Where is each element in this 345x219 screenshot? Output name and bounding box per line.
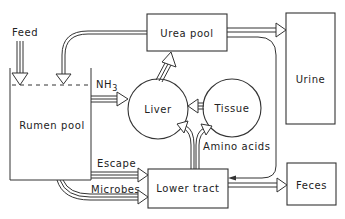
lower-tract-label: Lower tract bbox=[156, 183, 219, 194]
feces-label: Feces bbox=[296, 180, 327, 191]
lower-tract-to-feces-arrow bbox=[228, 178, 287, 192]
feces-node: Feces bbox=[287, 163, 336, 205]
urea-pool-node: Urea pool bbox=[147, 14, 227, 51]
nh3-arrow: NH3 bbox=[91, 79, 128, 106]
tissue-node: Tissue bbox=[203, 79, 261, 137]
liver-to-urea-arrow bbox=[156, 52, 176, 82]
amino-acids-label: Amino acids bbox=[203, 141, 271, 152]
urine-label: Urine bbox=[296, 74, 326, 85]
feed-arrow: Feed bbox=[12, 27, 38, 85]
urea-recycle-arrow bbox=[56, 31, 147, 84]
nitrogen-flow-diagram: Urea pool Urine Feces Rumen pool Lower t… bbox=[0, 0, 345, 219]
tissue-to-liver-arrow bbox=[188, 99, 204, 113]
escape-arrow: Escape bbox=[91, 158, 148, 182]
liver-label: Liver bbox=[144, 104, 172, 115]
lower-tract-node: Lower tract bbox=[148, 169, 228, 208]
feed-label: Feed bbox=[12, 27, 38, 38]
microbes-label: Microbes bbox=[91, 184, 140, 195]
urea-to-urine-arrow bbox=[227, 23, 286, 37]
urine-node: Urine bbox=[286, 13, 335, 124]
escape-label: Escape bbox=[97, 158, 136, 169]
nh3-label: NH3 bbox=[96, 79, 118, 93]
urea-pool-label: Urea pool bbox=[160, 28, 213, 39]
microbes-arrow: Microbes bbox=[57, 180, 148, 204]
tissue-label: Tissue bbox=[213, 103, 249, 114]
liver-node: Liver bbox=[128, 79, 188, 139]
rumen-pool-node: Rumen pool bbox=[10, 68, 91, 180]
rumen-pool-label: Rumen pool bbox=[19, 120, 85, 131]
